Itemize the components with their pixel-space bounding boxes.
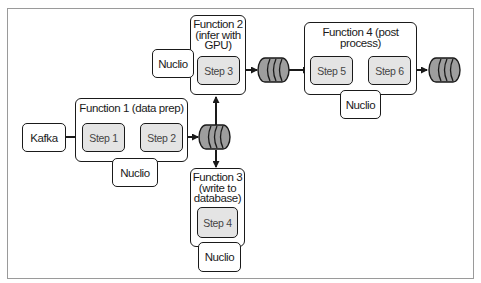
step-1: Step 1 — [82, 123, 125, 152]
function-4-title: Function 4 (post process) — [305, 27, 416, 48]
step-4: Step 4 — [197, 207, 238, 238]
function-3-nuclio: Nuclio — [198, 242, 241, 272]
function-2-nuclio: Nuclio — [152, 49, 194, 78]
function-2-title-line: GPU) — [191, 40, 245, 51]
step-2: Step 2 — [140, 123, 183, 152]
function-1-nuclio: Nuclio — [112, 158, 158, 187]
queue-icon — [258, 58, 289, 82]
step-3: Step 3 — [197, 56, 240, 85]
function-2-title-line: Function 2 — [191, 19, 245, 30]
queue-icon — [429, 58, 460, 82]
function-1-title: Function 1 (data prep) — [76, 103, 187, 114]
step-5: Step 5 — [310, 56, 353, 85]
queue-icon — [199, 125, 230, 149]
kafka-source: Kafka — [22, 123, 66, 152]
function-4-nuclio: Nuclio — [340, 90, 381, 119]
function-3-title-line: Function 3 — [191, 172, 244, 183]
step-6: Step 6 — [368, 56, 411, 85]
function-4-title-line: process) — [305, 38, 416, 49]
function-4-title-line: Function 4 (post — [305, 27, 416, 38]
function-2-title: Function 2 (infer with GPU) — [191, 19, 245, 51]
function-3-title-line: database) — [191, 193, 244, 204]
function-3-title: Function 3 (write to database) — [191, 172, 244, 204]
